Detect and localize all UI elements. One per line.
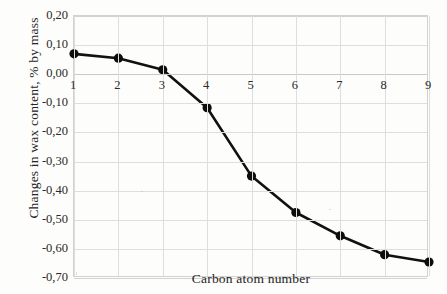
x-axis-tick-label: 7 bbox=[336, 78, 342, 93]
x-axis-tick-labels: 123456789 bbox=[73, 78, 428, 96]
gridline-horizontal bbox=[74, 132, 427, 133]
gridline-vertical bbox=[163, 16, 164, 276]
gridline-vertical bbox=[74, 16, 75, 276]
y-axis-tick-label: -0,10 bbox=[4, 95, 68, 110]
y-axis-tick-label: -0,30 bbox=[4, 153, 68, 168]
x-axis-tick-label: 6 bbox=[292, 78, 298, 93]
x-axis-tick-label: 8 bbox=[381, 78, 387, 93]
x-axis-title: Carbon atom number bbox=[73, 271, 429, 287]
chart-figure: Changes in wax content, % by mass 0,200,… bbox=[0, 0, 447, 294]
gridline-vertical bbox=[207, 16, 208, 276]
gridline-horizontal bbox=[74, 74, 427, 75]
gridline-horizontal bbox=[74, 162, 427, 163]
x-axis-tick-label: 9 bbox=[425, 78, 431, 93]
y-axis-tick-label: -0,20 bbox=[4, 124, 68, 139]
gridline-horizontal bbox=[74, 220, 427, 221]
y-axis-tick-label: -0,50 bbox=[4, 211, 68, 226]
y-axis-tick-label: -0,60 bbox=[4, 240, 68, 255]
gridline-horizontal bbox=[74, 191, 427, 192]
y-axis-tick-label: -0,40 bbox=[4, 182, 68, 197]
y-axis-tick-label: -0,70 bbox=[4, 270, 68, 285]
x-axis-tick-label: 2 bbox=[114, 78, 120, 93]
x-axis-tick-label: 3 bbox=[159, 78, 165, 93]
plot-area bbox=[73, 15, 428, 277]
scan-speck bbox=[76, 272, 77, 275]
y-axis-tick-label: 0,10 bbox=[4, 37, 68, 52]
gridline-vertical bbox=[385, 16, 386, 276]
scan-speck bbox=[329, 209, 331, 210]
gridline-horizontal bbox=[74, 16, 427, 17]
x-axis-tick-label: 4 bbox=[203, 78, 209, 93]
gridline-horizontal bbox=[74, 249, 427, 250]
gridline-horizontal bbox=[74, 45, 427, 46]
gridline-vertical bbox=[296, 16, 297, 276]
gridline-vertical bbox=[118, 16, 119, 276]
gridline-vertical bbox=[340, 16, 341, 276]
gridline-vertical bbox=[429, 16, 430, 276]
y-axis-tick-label: 0,20 bbox=[4, 8, 68, 23]
x-axis-tick-label: 5 bbox=[247, 78, 253, 93]
gridline-horizontal bbox=[74, 103, 427, 104]
scan-speck bbox=[141, 191, 143, 192]
gridline-vertical bbox=[252, 16, 253, 276]
x-axis-tick-label: 1 bbox=[70, 78, 76, 93]
y-axis-tick-label: 0,00 bbox=[4, 66, 68, 81]
y-axis-tick-labels: 0,200,100,00-0,10-0,20-0,30-0,40-0,50-0,… bbox=[0, 15, 68, 277]
